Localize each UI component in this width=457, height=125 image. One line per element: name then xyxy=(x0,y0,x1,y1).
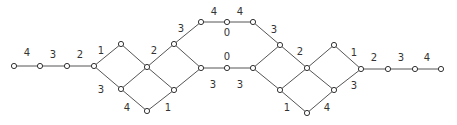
node-n12 xyxy=(224,19,229,24)
node-n20 xyxy=(331,42,336,47)
node-n21 xyxy=(331,87,336,92)
node-n18 xyxy=(304,65,309,70)
edge-n15-n17 xyxy=(253,68,280,90)
edge-n18-n20 xyxy=(307,45,334,68)
node-n6 xyxy=(144,64,149,69)
edge-weight-label: 2 xyxy=(77,49,83,60)
node-n24 xyxy=(412,66,417,71)
edge-weight-label: 4 xyxy=(211,6,217,17)
node-n25 xyxy=(438,66,443,71)
edge-weight-label: 4 xyxy=(24,47,30,58)
edge-n9-n11 xyxy=(174,68,201,90)
edge-weight-label: 0 xyxy=(224,51,230,62)
node-n11 xyxy=(198,65,203,70)
edge-weight-label: 3 xyxy=(98,84,104,95)
edge-weight-label: 3 xyxy=(271,24,277,35)
edge-weight-label: 4 xyxy=(424,52,430,63)
edge-weight-label: 1 xyxy=(165,102,171,113)
edge-weight-label: 1 xyxy=(284,102,290,113)
edge-weight-label: 3 xyxy=(210,79,216,90)
node-n0 xyxy=(11,63,16,68)
edge-weight-label: 4 xyxy=(124,102,130,113)
edge-n5-n6 xyxy=(121,67,147,89)
edge-weight-label: 4 xyxy=(324,102,330,113)
node-n9 xyxy=(171,87,176,92)
edge-weight-label: 2 xyxy=(297,46,303,57)
node-n13 xyxy=(224,65,229,70)
edge-weight-label: 3 xyxy=(351,80,357,91)
edge-n18-n21 xyxy=(307,68,334,90)
edge-weight-label: 4 xyxy=(237,6,243,17)
edge-n8-n11 xyxy=(174,44,201,68)
edge-n17-n18 xyxy=(280,68,307,90)
node-n15 xyxy=(250,65,255,70)
edge-weight-label: 3 xyxy=(237,79,243,90)
edge-weight-label: 2 xyxy=(151,45,157,56)
edge-n4-n6 xyxy=(121,44,147,67)
node-n22 xyxy=(358,66,363,71)
node-n3 xyxy=(91,63,96,68)
node-n23 xyxy=(385,66,390,71)
node-n10 xyxy=(198,19,203,24)
edge-weight-label: 2 xyxy=(371,52,377,63)
node-n14 xyxy=(250,19,255,24)
edge-n6-n9 xyxy=(147,67,174,90)
node-n1 xyxy=(37,63,42,68)
node-n5 xyxy=(118,86,123,91)
node-n19 xyxy=(304,110,309,115)
edge-weight-label: 3 xyxy=(50,49,56,60)
edge-weight-label: 1 xyxy=(98,45,104,56)
node-n8 xyxy=(171,41,176,46)
node-n4 xyxy=(118,41,123,46)
edge-weight-label: 3 xyxy=(398,52,404,63)
edge-weight-label: 3 xyxy=(178,23,184,34)
node-n16 xyxy=(277,42,282,47)
lattice-diagram: 432132413440033321413234 xyxy=(0,0,457,125)
node-n2 xyxy=(64,63,69,68)
edge-n15-n16 xyxy=(253,45,280,68)
edge-weight-label: 0 xyxy=(224,27,230,38)
edge-weight-label: 1 xyxy=(351,47,357,58)
node-n17 xyxy=(277,87,282,92)
node-n7 xyxy=(144,108,149,113)
